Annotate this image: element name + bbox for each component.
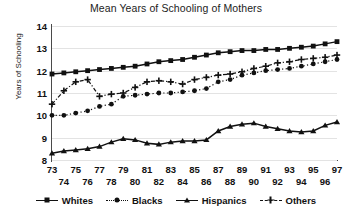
data-point bbox=[180, 57, 185, 62]
data-point bbox=[287, 46, 292, 51]
data-point bbox=[109, 102, 114, 107]
plus-marker-icon bbox=[267, 197, 274, 204]
data-point bbox=[287, 66, 292, 71]
data-point bbox=[144, 79, 150, 85]
x-axis-tick-label: 78 bbox=[106, 176, 117, 187]
data-point bbox=[108, 91, 114, 97]
x-axis-tick-label: 92 bbox=[272, 176, 283, 187]
legend-swatch-hispanics bbox=[176, 195, 198, 205]
plot-wrap: 73757779818385878991939597 7476788082848… bbox=[52, 26, 337, 160]
data-point bbox=[311, 44, 316, 49]
data-point bbox=[299, 64, 304, 69]
legend-swatch-blacks bbox=[106, 195, 128, 205]
legend-label: Blacks bbox=[132, 195, 163, 206]
data-point bbox=[228, 77, 233, 82]
x-axis-tick-label: 91 bbox=[260, 164, 271, 175]
data-point bbox=[61, 71, 66, 76]
x-axis-tick-label: 94 bbox=[296, 176, 307, 187]
square-marker-icon bbox=[44, 198, 49, 203]
legend-item-hispanics[interactable]: Hispanics bbox=[176, 195, 247, 206]
x-axis-tick-label: 76 bbox=[82, 176, 93, 187]
x-axis-tick-row-top: 73757779818385878991939597 bbox=[52, 164, 337, 176]
x-axis-tick-label: 96 bbox=[320, 176, 331, 187]
data-point bbox=[168, 58, 173, 63]
data-point bbox=[310, 55, 316, 61]
y-axis-title: Years of Schooling bbox=[14, 13, 23, 121]
data-point bbox=[97, 67, 102, 72]
data-point bbox=[286, 59, 292, 65]
x-axis-tick-label: 74 bbox=[59, 176, 70, 187]
data-point bbox=[179, 81, 185, 87]
data-point bbox=[251, 65, 257, 71]
data-point bbox=[203, 74, 209, 80]
y-axis-tick-label: 14 bbox=[36, 21, 47, 32]
data-point bbox=[156, 59, 161, 64]
x-axis-tick-label: 82 bbox=[154, 176, 165, 187]
legend-marker bbox=[44, 198, 49, 203]
data-point bbox=[323, 41, 328, 46]
y-axis-tick-label: 10 bbox=[36, 110, 47, 121]
data-point bbox=[274, 60, 280, 66]
data-point bbox=[240, 48, 245, 53]
data-point bbox=[168, 91, 173, 96]
legend-item-blacks[interactable]: Blacks bbox=[106, 195, 163, 206]
data-point bbox=[204, 53, 209, 58]
legend-label: Hispanics bbox=[202, 195, 247, 206]
data-point bbox=[334, 119, 340, 124]
y-axis-tick-label: 11 bbox=[37, 88, 47, 99]
data-point bbox=[263, 63, 269, 69]
data-point bbox=[311, 62, 316, 67]
legend-item-whites[interactable]: Whites bbox=[36, 195, 93, 206]
x-axis-tick-label: 86 bbox=[201, 176, 212, 187]
data-point bbox=[322, 54, 328, 60]
y-axis-tick-label: 9 bbox=[42, 132, 47, 143]
chart-container: Mean Years of Schooling of Mothers Years… bbox=[0, 0, 352, 213]
data-point bbox=[132, 84, 138, 90]
data-point bbox=[275, 47, 280, 52]
legend-marker bbox=[267, 197, 274, 204]
data-point bbox=[50, 72, 55, 77]
y-axis-tick-label: 12 bbox=[36, 65, 47, 76]
x-axis-tick-label: 79 bbox=[118, 164, 129, 175]
data-point bbox=[133, 64, 138, 69]
data-point bbox=[85, 68, 90, 73]
data-point bbox=[156, 91, 161, 96]
data-point bbox=[145, 62, 150, 67]
legend-swatch-whites bbox=[36, 195, 58, 205]
data-point bbox=[263, 47, 268, 52]
data-point bbox=[239, 69, 245, 75]
data-point bbox=[85, 108, 90, 113]
data-point bbox=[50, 113, 55, 118]
x-axis-tick-label: 89 bbox=[237, 164, 248, 175]
x-axis-tick-label: 83 bbox=[165, 164, 176, 175]
x-axis-tick-label: 85 bbox=[189, 164, 200, 175]
data-point bbox=[156, 78, 162, 84]
legend-label: Whites bbox=[62, 195, 93, 206]
data-point bbox=[227, 71, 233, 77]
x-axis-tick-label: 87 bbox=[213, 164, 224, 175]
chart-legend: WhitesBlacksHispanicsOthers bbox=[0, 190, 352, 210]
data-point bbox=[192, 88, 197, 93]
legend-item-others[interactable]: Others bbox=[260, 195, 317, 206]
data-point bbox=[73, 69, 78, 74]
x-axis-tick-label: 93 bbox=[284, 164, 295, 175]
plot-area bbox=[52, 26, 337, 160]
data-point bbox=[251, 48, 256, 53]
data-point bbox=[335, 39, 340, 44]
data-point bbox=[109, 66, 114, 71]
data-point bbox=[145, 92, 150, 97]
data-point bbox=[204, 86, 209, 91]
data-point bbox=[216, 50, 221, 55]
data-point bbox=[334, 52, 340, 58]
data-point bbox=[192, 55, 197, 60]
series-line-hispanics bbox=[52, 122, 337, 153]
y-axis-tick-label: 13 bbox=[36, 43, 47, 54]
data-point bbox=[215, 72, 221, 78]
x-axis-tick-label: 81 bbox=[142, 164, 153, 175]
data-point bbox=[61, 113, 66, 118]
data-point bbox=[168, 79, 174, 85]
data-point bbox=[299, 45, 304, 50]
triangle-marker-icon bbox=[184, 198, 190, 203]
series-layer bbox=[52, 26, 337, 160]
legend-marker bbox=[184, 198, 190, 203]
